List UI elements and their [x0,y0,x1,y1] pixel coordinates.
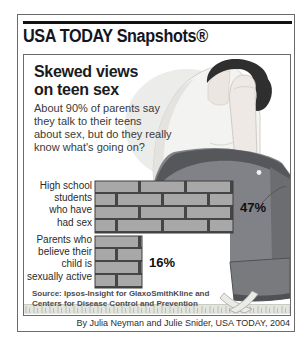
jeans-rivet [257,170,262,175]
intro-text: About 90% of parents say they talk to th… [34,102,172,154]
bar-high-school-students [95,181,233,233]
infographic-panel: 47% 16% Skewed views on teen sex About 9… [23,54,291,316]
bar-label-high-school: High school students who have had sex [24,180,92,229]
bar-label-parents: Parents who believe their child is sexua… [24,234,92,283]
snapshot-card: USA TODAY Snapshots® [17,14,295,332]
byline-credit: By Julia Neyman and Julie Snider, USA TO… [77,318,290,328]
jeans-leg-shading [270,167,290,261]
masthead-title: USA TODAY Snapshots® [23,26,208,47]
source-text: Source: Ipsos-Insight for GlaxoSmithKlin… [32,289,209,310]
bar-value-parents: 16% [149,255,175,270]
bar-value-high-school: 47% [240,200,266,215]
brick-bars [95,181,233,288]
bar-parents-believe [95,236,142,288]
headline: Skewed views on teen sex [34,63,138,98]
masthead-rule [23,21,292,24]
